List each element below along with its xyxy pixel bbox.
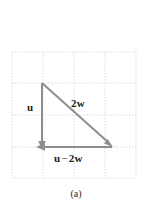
- vector-u-minus-2w: [36, 143, 112, 150]
- vector-label-u-minus-2w: u−2w: [54, 153, 83, 164]
- vector-label-u-text: u: [27, 101, 33, 113]
- vector-label-u: u: [27, 102, 33, 113]
- plot-area: u 2w u−2w: [0, 0, 152, 186]
- vector-label-2w-text: 2w: [71, 97, 85, 109]
- vector-figure: u 2w u−2w (a): [0, 0, 152, 209]
- figure-caption: (a): [0, 188, 152, 200]
- vector-label-u-minus-2w-second: w: [74, 152, 82, 164]
- vector-label-minus-operator: −: [60, 152, 68, 164]
- vector-u: [38, 83, 45, 150]
- vector-label-2w: 2w: [71, 98, 85, 109]
- vector-2w-shaft: [42, 83, 109, 143]
